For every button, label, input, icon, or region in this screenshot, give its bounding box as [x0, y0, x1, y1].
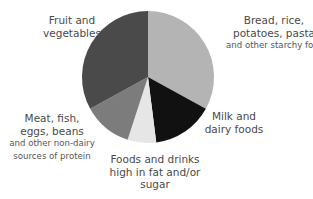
label-protein: Meat, fish, eggs, beans and other non-da… — [8, 112, 96, 162]
label-line: Foods and drinks — [108, 153, 202, 166]
label-line: Fruit and — [38, 14, 106, 27]
label-milk-dairy: Milk and dairy foods — [202, 110, 266, 135]
label-line: eggs, beans — [8, 125, 96, 138]
label-line: vegetables — [38, 27, 106, 40]
label-line: Bread, rice, — [226, 14, 313, 27]
label-line: dairy foods — [202, 123, 266, 136]
label-line: potatoes, pasta — [226, 27, 313, 40]
label-subline: and other non-dairy — [8, 137, 96, 150]
label-starchy-foods: Bread, rice, potatoes, pasta and other s… — [226, 14, 313, 52]
label-fruit-vegetables: Fruit and vegetables — [38, 14, 106, 39]
label-fat-sugar: Foods and drinks high in fat and/or suga… — [108, 153, 202, 191]
label-line: Meat, fish, — [8, 112, 96, 125]
label-subline: sources of protein — [8, 150, 96, 163]
label-line: sugar — [108, 178, 202, 191]
label-line: high in fat and/or — [108, 166, 202, 179]
label-subline: and other starchy foods — [226, 39, 313, 52]
label-line: Milk and — [202, 110, 266, 123]
